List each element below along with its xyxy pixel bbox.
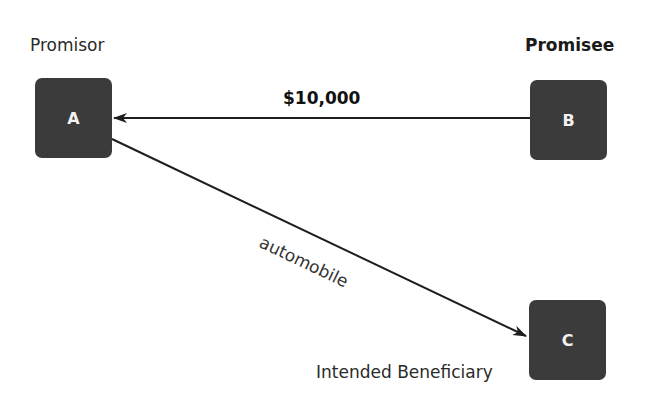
- promisee-label: Promisee: [525, 35, 614, 55]
- node-b: B: [530, 80, 607, 160]
- node-a: A: [35, 78, 112, 158]
- edge-a-to-c-arrow: [112, 139, 526, 336]
- node-c-letter: C: [562, 331, 574, 350]
- promisor-label: Promisor: [30, 35, 105, 55]
- node-c: C: [529, 300, 606, 380]
- node-b-letter: B: [562, 111, 574, 130]
- intended-beneficiary-label: Intended Beneficiary: [316, 362, 493, 382]
- edge-b-to-a-label: $10,000: [283, 88, 360, 108]
- node-a-letter: A: [67, 109, 79, 128]
